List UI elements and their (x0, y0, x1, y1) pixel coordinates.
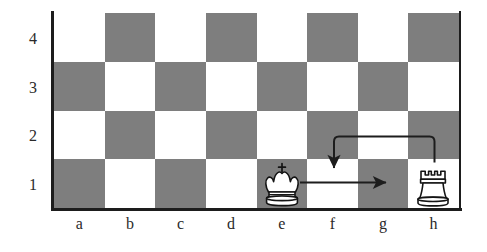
file-label-a: a (54, 216, 105, 232)
rank-label-4: 4 (18, 31, 48, 47)
board-square-f3 (307, 62, 358, 111)
board-square-g1 (358, 159, 409, 208)
board-square-f4 (307, 13, 358, 62)
board-square-h1 (408, 159, 459, 208)
board-border-right (459, 11, 461, 210)
board-square-f1 (307, 159, 358, 208)
board-square-d4 (206, 13, 257, 62)
board-square-d2 (206, 111, 257, 160)
board-square-b2 (105, 111, 156, 160)
board-square-b4 (105, 13, 156, 62)
board-square-e3 (257, 62, 308, 111)
board-square-b1 (105, 159, 156, 208)
board-square-d1 (206, 159, 257, 208)
board-square-g2 (358, 111, 409, 160)
chess-castling-diagram: 4 3 2 1 a b c d e f g h (0, 0, 487, 252)
board-square-d3 (206, 62, 257, 111)
file-label-f: f (307, 216, 358, 232)
board-square-b3 (105, 62, 156, 111)
board-border-bottom (51, 208, 462, 211)
file-label-c: c (155, 216, 206, 232)
board-square-c1 (155, 159, 206, 208)
board-square-c4 (155, 13, 206, 62)
board-square-e2 (257, 111, 308, 160)
file-label-h: h (408, 216, 459, 232)
file-label-d: d (206, 216, 257, 232)
board-square-a3 (54, 62, 105, 111)
rank-label-3: 3 (18, 80, 48, 96)
board-square-h4 (408, 13, 459, 62)
board-border-left (51, 11, 54, 210)
rank-label-1: 1 (18, 177, 48, 193)
board-square-a2 (54, 111, 105, 160)
file-label-g: g (358, 216, 409, 232)
board-square-h3 (408, 62, 459, 111)
rank-label-2: 2 (18, 128, 48, 144)
file-label-e: e (256, 216, 307, 232)
board-square-g4 (358, 13, 409, 62)
board-square-g3 (358, 62, 409, 111)
board-square-f2 (307, 111, 358, 160)
board-square-e1 (257, 159, 308, 208)
board-square-a4 (54, 13, 105, 62)
board-square-e4 (257, 13, 308, 62)
file-label-b: b (105, 216, 156, 232)
board-square-a1 (54, 159, 105, 208)
board-square-c3 (155, 62, 206, 111)
board-square-c2 (155, 111, 206, 160)
chess-board (54, 13, 459, 208)
board-square-h2 (408, 111, 459, 160)
chess-squares-grid (54, 13, 459, 208)
